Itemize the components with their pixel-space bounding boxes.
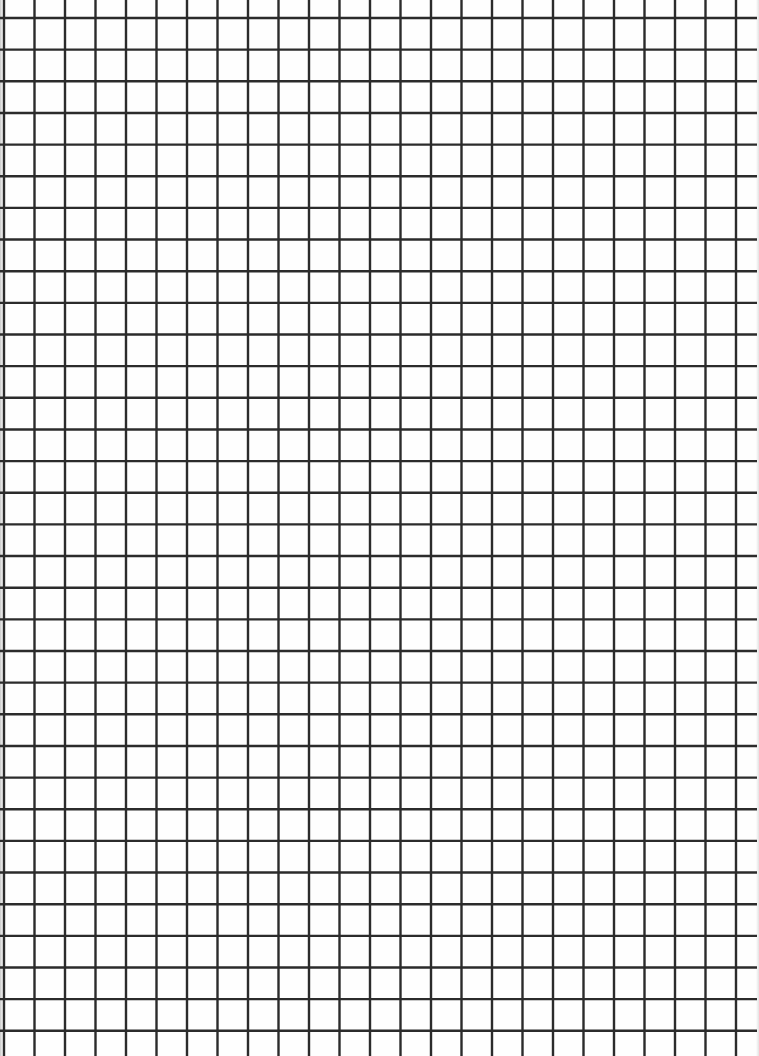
grid-lines (0, 0, 759, 1056)
grid-paper-sheet (0, 0, 759, 1056)
